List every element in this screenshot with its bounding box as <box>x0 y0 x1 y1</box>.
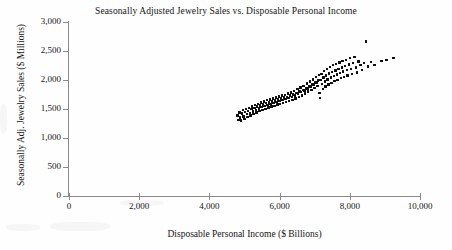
scatter-point <box>313 87 315 89</box>
scatter-point <box>320 73 322 75</box>
scatter-point <box>288 100 290 102</box>
scatter-point <box>344 65 346 67</box>
scatter-point <box>310 89 312 91</box>
scatter-point <box>357 60 359 62</box>
scatter-point <box>335 63 337 65</box>
scatter-point <box>373 64 375 66</box>
x-tick-label: 2,000 <box>109 201 169 211</box>
scatter-point <box>322 88 324 90</box>
scatter-point <box>291 96 293 98</box>
scatter-point <box>350 68 352 70</box>
scatter-point <box>353 56 355 58</box>
scatter-point <box>365 40 367 42</box>
scatter-point <box>312 78 314 80</box>
scatter-point <box>338 61 340 63</box>
scatter-point <box>291 99 293 101</box>
scatter-point <box>356 71 358 73</box>
y-tick-label-wrap: 1,500 <box>0 103 61 115</box>
scatter-point <box>298 96 300 98</box>
scatter-point <box>301 94 303 96</box>
scatter-point <box>343 76 345 78</box>
scatter-points-layer <box>69 22 420 196</box>
x-tick-mark <box>420 193 421 200</box>
scatter-point <box>351 73 353 75</box>
y-tick-label: 2,500 <box>15 45 61 55</box>
scatter-point <box>392 57 394 59</box>
scatter-point <box>316 85 318 87</box>
scatter-point <box>363 62 365 64</box>
scatter-point <box>359 64 361 66</box>
scatter-point <box>306 87 308 89</box>
scatter-point <box>303 89 305 91</box>
scatter-point <box>339 72 341 74</box>
scatter-point <box>370 61 372 63</box>
y-tick-label: 500 <box>15 161 61 171</box>
scatter-point <box>380 60 382 62</box>
scatter-point <box>348 63 350 65</box>
scatter-point <box>341 60 343 62</box>
y-tick-label: 0 <box>15 190 61 200</box>
y-tick-label: 3,000 <box>15 16 61 26</box>
y-tick-label-wrap: 1,000 <box>0 132 61 144</box>
scatter-point <box>243 118 245 120</box>
scatter-point <box>333 75 335 77</box>
chart-title: Seasonally Adjusted Jewelry Sales vs. Di… <box>0 6 452 16</box>
scatter-point <box>240 119 242 121</box>
scatter-point <box>349 57 351 59</box>
scatter-point <box>329 66 331 68</box>
scatter-point <box>333 80 335 82</box>
scatter-point <box>334 69 336 71</box>
scatter-point <box>332 64 334 66</box>
y-tick-label: 2,000 <box>15 74 61 84</box>
scatter-point <box>297 93 299 95</box>
scatter-point <box>306 82 308 84</box>
x-axis-label: Disposable Personal Income ($ Billions) <box>69 229 420 239</box>
scatter-point <box>336 79 338 81</box>
scatter-point <box>239 116 241 118</box>
scatter-point <box>331 71 333 73</box>
scatter-point <box>345 59 347 61</box>
scatter-point <box>319 79 321 81</box>
x-tick-label: 10,000 <box>390 201 450 211</box>
y-tick-label-wrap: 2,500 <box>0 45 61 57</box>
x-axis-spine <box>68 196 421 197</box>
scatter-point <box>330 82 332 84</box>
scatter-point <box>340 77 342 79</box>
scatter-point <box>294 97 296 99</box>
scatter-point <box>352 62 354 64</box>
scatter-point <box>336 73 338 75</box>
y-tick-label: 1,000 <box>15 132 61 142</box>
scatter-point <box>355 66 357 68</box>
scatter-point <box>321 83 323 85</box>
scatter-point <box>342 70 344 72</box>
scatter-chart-figure: Seasonally Adjusted Jewelry Sales vs. Di… <box>0 0 452 250</box>
scatter-point <box>315 76 317 78</box>
scatter-point <box>304 92 306 94</box>
y-tick-label: 1,500 <box>15 103 61 113</box>
scatter-point <box>346 74 348 76</box>
scatter-point <box>246 116 248 118</box>
scatter-point <box>367 65 369 67</box>
scatter-point <box>337 68 339 70</box>
x-tick-label: 0 <box>39 201 99 211</box>
scatter-point <box>287 97 289 99</box>
y-tick-label-wrap: 2,000 <box>0 74 61 86</box>
scatter-point <box>346 69 348 71</box>
x-tick-label: 8,000 <box>320 201 380 211</box>
scatter-point <box>326 68 328 70</box>
scan-artifact <box>6 224 40 231</box>
scatter-point <box>285 101 287 103</box>
plot-area <box>69 22 420 196</box>
x-tick-label: 4,000 <box>179 201 239 211</box>
scatter-point <box>323 70 325 72</box>
scatter-point <box>241 112 243 114</box>
x-tick-label: 6,000 <box>250 201 310 211</box>
y-tick-label-wrap: 3,000 <box>0 16 61 28</box>
scatter-point <box>385 59 387 61</box>
scatter-point <box>319 97 321 99</box>
scatter-point <box>326 78 328 80</box>
scatter-point <box>361 69 363 71</box>
scatter-point <box>330 76 332 78</box>
scatter-point <box>307 90 309 92</box>
scatter-point <box>322 76 324 78</box>
